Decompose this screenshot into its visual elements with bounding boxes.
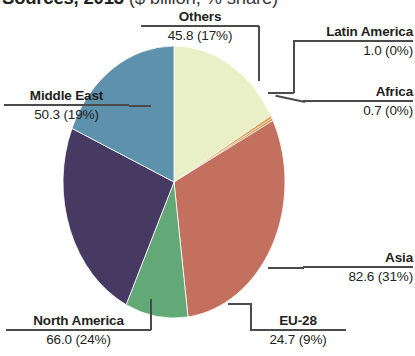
callout-others-label: Others [141,9,259,24]
callout-eu-28: EU-28 24.7 (9%) [250,313,346,348]
leader-line-others [258,26,260,81]
leader-line-asia [268,267,304,269]
callout-latin-america: Latin America 1.0 (0%) [293,24,413,59]
callout-africa: Africa 0.7 (0%) [303,84,413,119]
callout-north-america-value: 66.0 (24%) [6,331,151,348]
callout-africa-value: 0.7 (0%) [303,102,413,119]
leader-line-north-america [150,299,152,330]
leader-line-middle-east [129,105,151,107]
leader-line-latin-america-h [268,92,294,94]
leader-line-latin-america [293,41,295,93]
callout-eu-28-label: EU-28 [250,313,346,328]
callout-asia-value: 82.6 (31%) [303,268,413,285]
callout-africa-label: Africa [303,84,413,99]
callout-north-america-label: North America [6,313,151,328]
pie-slices [63,46,285,318]
chart-title-units: ($ billion, % share) [129,0,278,8]
callout-middle-east-label: Middle East [4,88,129,103]
leader-line-eu-28 [250,303,252,330]
leader-line-eu-28-h [228,303,251,305]
callout-latin-america-label: Latin America [293,24,413,39]
chart-canvas: Sources, 2013 ($ billion, % share) [0,0,415,356]
callout-middle-east: Middle East 50.3 (19%) [4,88,129,123]
callout-asia: Asia 82.6 (31%) [303,250,413,285]
callout-others: Others 45.8 (17%) [141,9,259,44]
callout-others-value: 45.8 (17%) [141,27,259,44]
callout-north-america: North America 66.0 (24%) [6,313,151,348]
callout-asia-label: Asia [303,250,413,265]
chart-title-main: Sources, 2013 [2,0,124,8]
callout-middle-east-value: 50.3 (19%) [4,106,129,123]
pie-chart [63,46,285,318]
callout-latin-america-value: 1.0 (0%) [293,42,413,59]
callout-eu-28-value: 24.7 (9%) [250,331,346,348]
